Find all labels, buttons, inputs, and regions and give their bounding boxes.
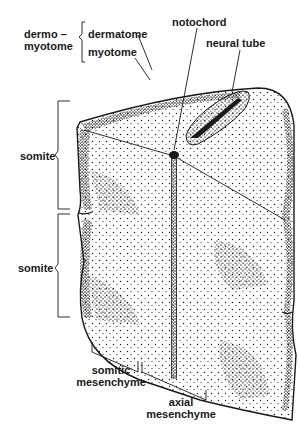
label-somitic-mesenchyme-line1: somitic xyxy=(76,364,146,376)
label-somitic-mesenchyme-line2: mesenchyme xyxy=(76,376,146,388)
label-myotome: myotome xyxy=(88,46,137,58)
label-dermatome: dermatome xyxy=(88,28,147,40)
label-somite-lower: somite xyxy=(18,262,53,274)
label-neural-tube: neural tube xyxy=(206,37,265,49)
label-somite-upper: somite xyxy=(20,150,55,162)
label-dermomyotome-line2: myotome xyxy=(24,40,73,52)
label-axial-mesenchyme-line1: axial xyxy=(146,396,216,408)
label-axial-mesenchyme-line2: mesenchyme xyxy=(146,408,216,420)
embryo-diagram xyxy=(0,0,300,439)
label-notochord: notochord xyxy=(172,16,226,28)
label-dermomyotome-line1: dermo – xyxy=(24,28,67,40)
